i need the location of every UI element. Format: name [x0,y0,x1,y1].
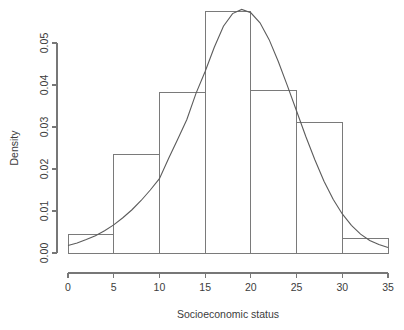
x-axis-title: Socioeconomic status [177,308,279,320]
x-axis-tick-label: 25 [291,281,303,293]
x-axis-tick-label: 30 [336,281,348,293]
y-axis-tick-label: 0.02 [38,159,50,180]
x-axis-tick-label: 5 [111,281,117,293]
y-axis: 0.000.010.020.030.040.05 [38,33,57,264]
histogram-bar [297,123,343,253]
histogram-bar [114,154,160,253]
y-axis-tick-label: 0.01 [38,201,50,222]
x-axis-tick-label: 0 [65,281,71,293]
y-axis-tick-label: 0.00 [38,243,50,264]
histogram-bars [68,12,388,253]
y-axis-tick-label: 0.05 [38,33,50,54]
x-axis-tick-label: 10 [154,281,166,293]
x-axis-tick-label: 35 [382,281,394,293]
density-curve [68,9,388,247]
x-axis-tick-label: 15 [199,281,211,293]
y-axis-title: Density [8,130,20,166]
histogram-bar [159,93,205,253]
chart-canvas: 0.000.010.020.030.040.05 05101520253035 … [0,0,404,330]
y-axis-tick-label: 0.04 [38,75,50,96]
x-axis-tick-label: 20 [245,281,257,293]
histogram-plot: 0.000.010.020.030.040.05 05101520253035 … [0,0,404,330]
y-axis-tick-label: 0.03 [38,117,50,138]
histogram-bar [205,12,251,253]
x-axis: 05101520253035 [65,273,394,293]
histogram-bar [251,90,297,253]
